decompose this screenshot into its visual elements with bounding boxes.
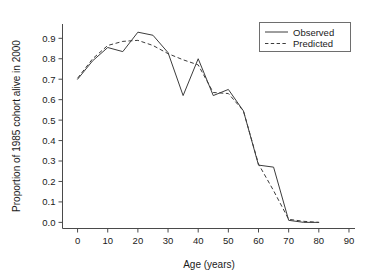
y-tick-label: 0.9	[42, 33, 55, 44]
x-tick-label: 80	[314, 235, 325, 246]
data-series-group	[78, 32, 319, 222]
x-tick-label: 40	[193, 235, 204, 246]
x-tick-label: 30	[163, 235, 174, 246]
x-axis-title: Age (years)	[183, 259, 235, 270]
y-axis-title: Proportion of 1985 cohort alive in 2000	[11, 40, 22, 212]
y-axis: 0.00.10.20.30.40.50.60.70.80.9	[42, 24, 62, 229]
legend-label-predicted: Predicted	[293, 38, 333, 49]
x-tick-label: 20	[133, 235, 144, 246]
x-axis: 0102030405060708090	[63, 229, 356, 246]
y-tick-label: 0.6	[42, 94, 55, 105]
y-tick-label: 0.3	[42, 155, 55, 166]
y-tick-label: 0.0	[42, 217, 55, 228]
chart-legend: Observed Predicted	[260, 23, 351, 52]
y-axis-ticks	[59, 38, 63, 222]
series-line-predicted	[78, 40, 319, 222]
y-axis-tick-labels: 0.00.10.20.30.40.50.60.70.80.9	[42, 33, 55, 228]
x-tick-label: 60	[253, 235, 264, 246]
x-tick-label: 70	[283, 235, 294, 246]
y-tick-label: 0.2	[42, 176, 55, 187]
y-tick-label: 0.5	[42, 115, 55, 126]
x-tick-label: 50	[223, 235, 234, 246]
y-tick-label: 0.8	[42, 53, 55, 64]
x-axis-tick-labels: 0102030405060708090	[75, 235, 354, 246]
y-tick-label: 0.4	[42, 135, 55, 146]
y-tick-label: 0.1	[42, 196, 55, 207]
x-tick-label: 0	[75, 235, 80, 246]
x-tick-label: 90	[344, 235, 355, 246]
line-chart: 0.00.10.20.30.40.50.60.70.80.9 010203040…	[0, 0, 368, 279]
legend-label-observed: Observed	[293, 27, 334, 38]
series-line-observed	[78, 32, 319, 222]
x-axis-ticks	[78, 229, 349, 233]
x-tick-label: 10	[102, 235, 113, 246]
y-tick-label: 0.7	[42, 74, 55, 85]
chart-figure: 0.00.10.20.30.40.50.60.70.80.9 010203040…	[0, 0, 368, 279]
